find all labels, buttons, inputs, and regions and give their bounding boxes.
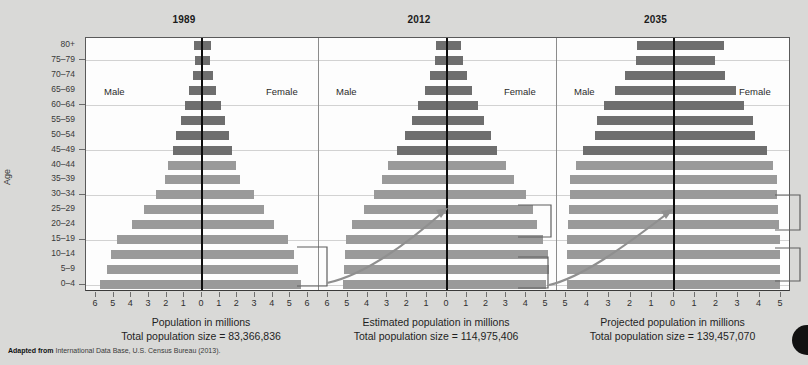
bar-female bbox=[674, 175, 777, 184]
bar-female bbox=[447, 116, 484, 125]
value-tick bbox=[651, 292, 652, 297]
value-tick bbox=[630, 292, 631, 297]
value-tick-label: 2 bbox=[708, 298, 724, 308]
bar-female bbox=[447, 71, 467, 80]
value-tick-label: 1 bbox=[686, 298, 702, 308]
bar-male bbox=[570, 175, 673, 184]
bar-female bbox=[447, 56, 463, 65]
bar-female bbox=[447, 265, 549, 274]
value-tick-label: 2 bbox=[478, 298, 494, 308]
value-tick bbox=[113, 292, 114, 297]
bar-male bbox=[568, 220, 673, 229]
bar-female bbox=[202, 220, 274, 229]
value-tick bbox=[426, 292, 427, 297]
value-tick-label: 3 bbox=[497, 298, 513, 308]
bar-female bbox=[447, 235, 543, 244]
panel-title-2035: 2035 bbox=[538, 14, 773, 25]
value-tick bbox=[272, 292, 273, 297]
label-male: Male bbox=[336, 86, 357, 97]
value-tick-label: 1 bbox=[175, 298, 191, 308]
bar-female bbox=[202, 265, 298, 274]
bar-female bbox=[674, 41, 725, 50]
bar-male bbox=[173, 146, 202, 155]
axis-caption-2012: Estimated population in millionsTotal po… bbox=[317, 315, 555, 343]
total-population-2012: Total population size = 114,975,406 bbox=[317, 329, 555, 343]
bar-male bbox=[374, 190, 447, 199]
value-tick bbox=[130, 292, 131, 297]
bar-female bbox=[674, 131, 756, 140]
center-line bbox=[673, 38, 675, 290]
bar-female bbox=[674, 265, 780, 274]
total-population-1989: Total population size = 83,366,836 bbox=[85, 329, 317, 343]
bar-male bbox=[604, 101, 674, 110]
value-tick-label: 4 bbox=[359, 298, 375, 308]
value-tick bbox=[716, 292, 717, 297]
value-tick bbox=[219, 292, 220, 297]
value-tick bbox=[587, 292, 588, 297]
value-tick-label: 4 bbox=[751, 298, 767, 308]
axis-caption-2035: Projected population in millionsTotal po… bbox=[555, 315, 790, 343]
value-tick-label: 3 bbox=[729, 298, 745, 308]
bar-male bbox=[567, 280, 673, 289]
bar-male bbox=[185, 101, 202, 110]
age-label: 40–44 bbox=[51, 160, 75, 169]
value-tick-label: 5 bbox=[772, 298, 788, 308]
value-tick bbox=[148, 292, 149, 297]
age-label: 50–54 bbox=[51, 130, 75, 139]
age-tick bbox=[79, 239, 85, 240]
bar-female bbox=[447, 86, 472, 95]
source-note-prefix: Adapted from bbox=[8, 347, 54, 354]
value-tick bbox=[446, 292, 447, 297]
bar-female bbox=[202, 101, 221, 110]
value-tick bbox=[95, 292, 96, 297]
bar-female bbox=[447, 280, 546, 289]
value-tick-label: 2 bbox=[622, 298, 638, 308]
value-tick-label: 5 bbox=[105, 298, 121, 308]
bar-male bbox=[165, 175, 202, 184]
bar-female bbox=[202, 56, 210, 65]
source-note-text: International Data Base, U.S. Census Bur… bbox=[54, 347, 221, 354]
label-female: Female bbox=[266, 86, 298, 97]
value-tick-label: 2 bbox=[228, 298, 244, 308]
value-tick bbox=[236, 292, 237, 297]
value-tick bbox=[545, 292, 546, 297]
bar-female bbox=[202, 86, 216, 95]
bar-female bbox=[674, 116, 754, 125]
plot-frame: MaleFemaleMaleFemaleMaleFemale bbox=[85, 37, 790, 291]
center-line bbox=[446, 38, 448, 290]
value-tick-label: 1 bbox=[418, 298, 434, 308]
value-tick-label: 3 bbox=[378, 298, 394, 308]
age-tick bbox=[79, 149, 85, 150]
bar-female bbox=[202, 235, 288, 244]
value-tick bbox=[694, 292, 695, 297]
bar-female bbox=[674, 280, 780, 289]
value-tick-label: 6 bbox=[319, 298, 335, 308]
bar-male bbox=[425, 86, 447, 95]
value-tick bbox=[505, 292, 506, 297]
age-label: 10–14 bbox=[51, 249, 75, 258]
bar-male bbox=[156, 190, 202, 199]
bar-male bbox=[144, 205, 202, 214]
panel-divider bbox=[556, 38, 557, 290]
bar-female bbox=[674, 205, 778, 214]
value-tick-label: 6 bbox=[87, 298, 103, 308]
bar-female bbox=[674, 86, 736, 95]
value-tick bbox=[737, 292, 738, 297]
value-tick-label: 1 bbox=[643, 298, 659, 308]
bar-female bbox=[447, 250, 548, 259]
corner-dot bbox=[792, 325, 808, 355]
source-note: Adapted from International Data Base, U.… bbox=[8, 347, 220, 354]
value-tick-label: 3 bbox=[140, 298, 156, 308]
bar-male bbox=[344, 265, 447, 274]
age-label: 15–19 bbox=[51, 234, 75, 243]
bar-male bbox=[570, 190, 673, 199]
xlabel-2012: Estimated population in millions bbox=[317, 315, 555, 329]
value-tick-label: 2 bbox=[158, 298, 174, 308]
bar-female bbox=[447, 131, 491, 140]
value-tick bbox=[201, 292, 202, 297]
bar-female bbox=[674, 71, 726, 80]
bar-male bbox=[397, 146, 447, 155]
age-label: 65–69 bbox=[51, 85, 75, 94]
bar-female bbox=[447, 101, 478, 110]
bar-female bbox=[202, 146, 232, 155]
